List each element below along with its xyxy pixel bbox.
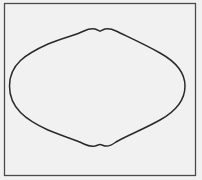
diagram-canvas	[0, 0, 202, 180]
frame-border	[5, 4, 196, 176]
diagram-svg	[0, 0, 202, 180]
closed-curve	[10, 29, 186, 146]
